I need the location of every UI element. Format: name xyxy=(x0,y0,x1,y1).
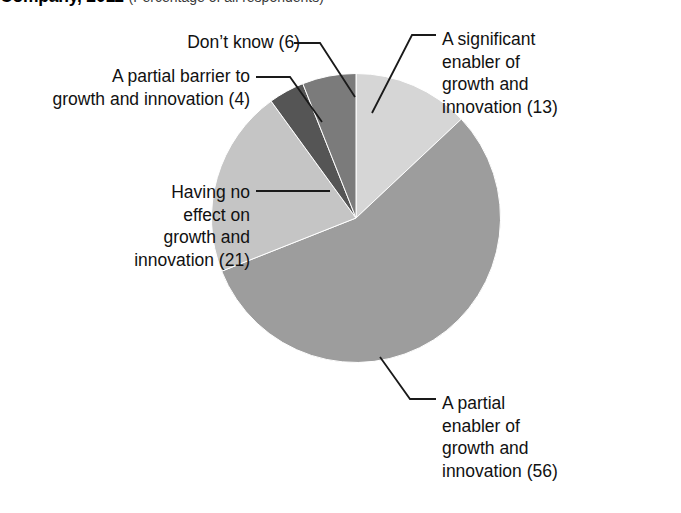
slice-label-significant-enabler: A significant enabler of growth and inno… xyxy=(442,28,674,118)
slice-label-partial-enabler: A partial enabler of growth and innovati… xyxy=(442,392,674,482)
slice-label-no-effect: Having no effect on growth and innovatio… xyxy=(18,181,250,271)
slice-label-dont-know: Don’t know (6) xyxy=(58,31,300,54)
chart-title: Company, 2011 xyxy=(0,0,124,6)
chart-title-row: Company, 2011(Percentage of all responde… xyxy=(0,0,681,8)
pie-chart-figure: Company, 2011(Percentage of all responde… xyxy=(0,0,681,513)
leader-line-partial-enabler xyxy=(380,357,436,399)
slice-label-partial-barrier: A partial barrier to growth and innovati… xyxy=(8,65,250,110)
chart-subtitle: (Percentage of all respondents) xyxy=(129,0,324,5)
